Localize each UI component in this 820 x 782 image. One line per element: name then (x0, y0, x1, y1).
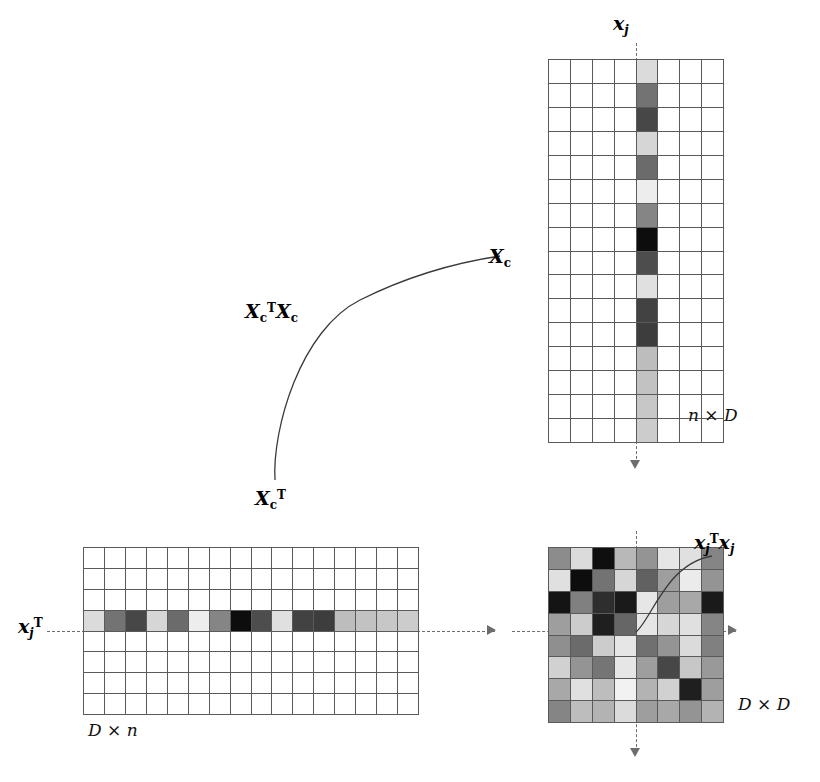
label-xct-subscript: c (270, 498, 277, 512)
matrix-cell-highlighted (637, 323, 659, 347)
matrix-cell (356, 694, 377, 715)
matrix-cell (293, 673, 314, 694)
matrix-cell-highlighted (637, 275, 659, 299)
matrix-cell (571, 419, 593, 443)
matrix-cell (356, 632, 377, 653)
matrix-cell (702, 679, 724, 701)
matrix-cell (549, 204, 571, 228)
matrix-cell (702, 156, 724, 180)
matrix-cell (615, 614, 637, 636)
matrix-cell (571, 180, 593, 204)
matrix-cell (593, 614, 615, 636)
matrix-cell (335, 548, 356, 569)
matrix-cell-highlighted (637, 228, 659, 252)
matrix-cell (356, 652, 377, 673)
matrix-cell (126, 590, 147, 611)
matrix-cell (593, 60, 615, 84)
matrix-cell (147, 673, 168, 694)
matrix-cell-highlighted (314, 611, 335, 632)
matrix-cell (637, 657, 659, 679)
matrix-cell (147, 548, 168, 569)
matrix-cell (658, 636, 680, 658)
matrix-cell (658, 395, 680, 419)
matrix-cell-highlighted (168, 611, 189, 632)
matrix-cell (658, 156, 680, 180)
matrix-cell (658, 228, 680, 252)
matrix-cell (189, 652, 210, 673)
matrix-cell (615, 132, 637, 156)
matrix-xc-n-by-d (548, 59, 724, 443)
matrix-cell (252, 673, 273, 694)
matrix-cell-highlighted (293, 611, 314, 632)
matrix-cell-highlighted (231, 611, 252, 632)
matrix-cell (593, 570, 615, 592)
matrix-cell (571, 60, 593, 84)
matrix-cell (658, 657, 680, 679)
matrix-cell (377, 673, 398, 694)
matrix-cell (637, 679, 659, 701)
matrix-cell (126, 548, 147, 569)
matrix-cell (702, 108, 724, 132)
matrix-cell (252, 590, 273, 611)
matrix-cell (702, 636, 724, 658)
matrix-cell (615, 84, 637, 108)
matrix-cell (293, 548, 314, 569)
label-xjtxj-base1: x (694, 531, 705, 553)
matrix-cell (314, 652, 335, 673)
matrix-cell (702, 299, 724, 323)
matrix-cell (571, 228, 593, 252)
matrix-cell (84, 632, 105, 653)
matrix-cell (84, 569, 105, 590)
matrix-cell (126, 694, 147, 715)
matrix-cell (549, 395, 571, 419)
matrix-cell-highlighted (637, 419, 659, 443)
matrix-cell (272, 673, 293, 694)
label-xctxc-sup: T (267, 301, 276, 315)
matrix-cell (593, 592, 615, 614)
matrix-cell (702, 701, 724, 723)
matrix-cell (702, 60, 724, 84)
matrix-cell-highlighted (637, 395, 659, 419)
matrix-cell-highlighted (637, 252, 659, 276)
matrix-cell (335, 569, 356, 590)
matrix-cell (702, 592, 724, 614)
matrix-cell (680, 204, 702, 228)
matrix-cell (105, 590, 126, 611)
matrix-cell (593, 299, 615, 323)
matrix-cell (593, 84, 615, 108)
matrix-cell (272, 548, 293, 569)
matrix-cell (377, 694, 398, 715)
matrix-cell (398, 548, 419, 569)
matrix-cell (571, 299, 593, 323)
matrix-cell (231, 652, 252, 673)
matrix-cell (168, 590, 189, 611)
label-row-vector-xjT: xjT (18, 617, 43, 639)
matrix-cell (571, 347, 593, 371)
matrix-cell (549, 180, 571, 204)
matrix-cell (702, 84, 724, 108)
matrix-cell (231, 590, 252, 611)
matrix-cell (637, 548, 659, 570)
matrix-cell (615, 570, 637, 592)
matrix-cell (658, 371, 680, 395)
matrix-cell (189, 548, 210, 569)
matrix-cell (105, 548, 126, 569)
matrix-cell (549, 323, 571, 347)
figure-canvas: xj xjT xjTxj Xc XcT XcTXc n × D D × n D … (0, 0, 820, 782)
matrix-cell (189, 569, 210, 590)
matrix-cell (571, 204, 593, 228)
matrix-cell-highlighted (637, 60, 659, 84)
arrow-down-icon-column-top (630, 460, 640, 469)
matrix-cell (168, 652, 189, 673)
matrix-cell (356, 590, 377, 611)
matrix-cell (593, 548, 615, 570)
matrix-cell (549, 636, 571, 658)
matrix-cell (571, 156, 593, 180)
matrix-cell (210, 673, 231, 694)
matrix-cell (147, 652, 168, 673)
matrix-cell (658, 299, 680, 323)
matrix-cell-highlighted (637, 614, 659, 636)
matrix-cell (549, 84, 571, 108)
matrix-cell (210, 590, 231, 611)
matrix-cell-highlighted (637, 84, 659, 108)
